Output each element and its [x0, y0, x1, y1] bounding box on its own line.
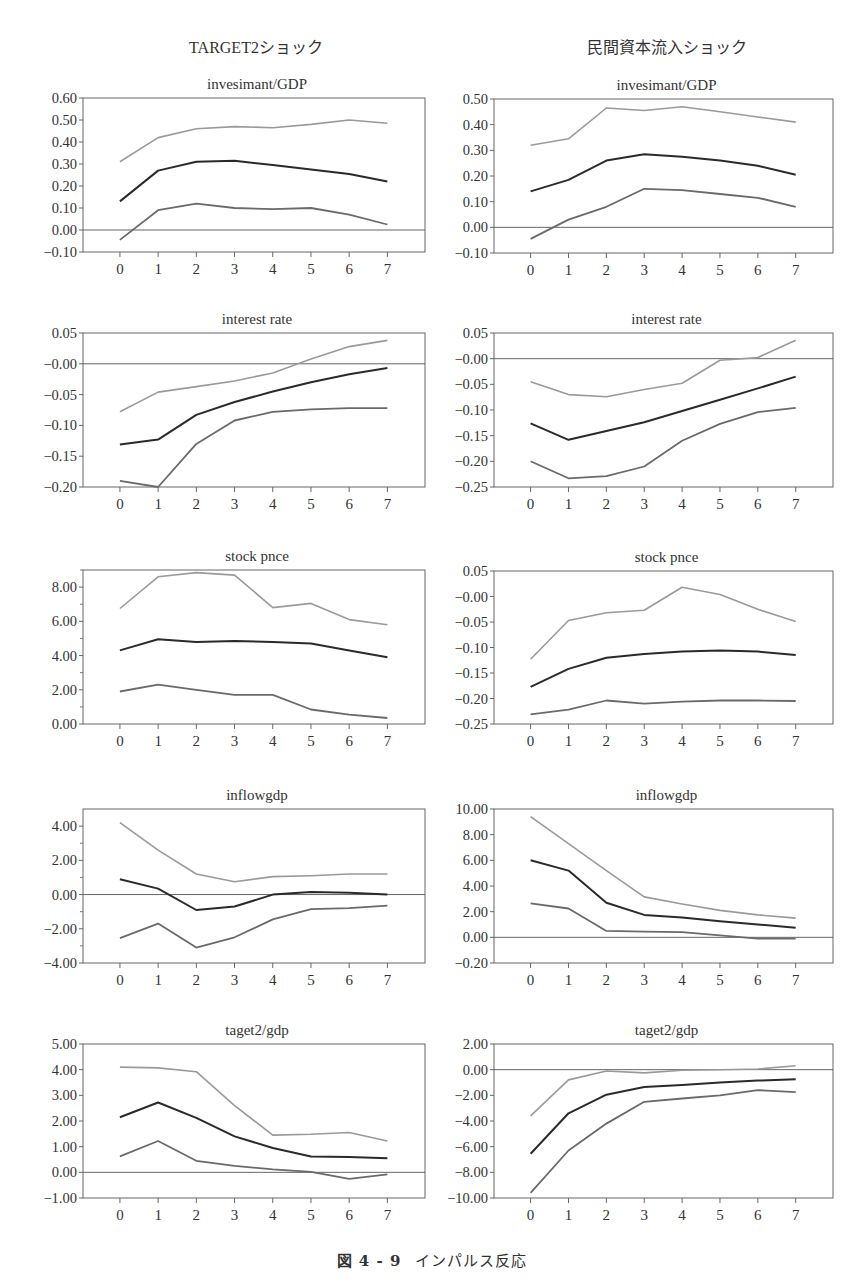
- figure-caption-text: インパルス反応: [415, 1252, 527, 1270]
- y-tick-label: 0.30: [52, 156, 77, 172]
- x-tick-label: 6: [345, 972, 353, 988]
- x-tick-label: 4: [678, 972, 686, 988]
- y-tick-label: 0.60: [52, 90, 77, 106]
- y-tick-label: −10.00: [447, 1190, 488, 1206]
- x-tick-label: 2: [193, 261, 201, 277]
- x-tick-label: 6: [754, 733, 762, 749]
- x-tick-label: 4: [269, 1207, 277, 1223]
- y-tick-label: 0.05: [52, 325, 77, 341]
- x-tick-label: 1: [154, 733, 162, 749]
- y-tick-label: −0.20: [43, 479, 77, 495]
- y-tick-label: 6.00: [463, 852, 488, 868]
- y-tick-label: 0.00: [52, 222, 77, 238]
- panel-title: stock pnce: [635, 549, 699, 565]
- chart-panel-t2-inflow: inflowgdp4.002.000.00−2.00−4.0001234567: [43, 787, 425, 988]
- x-tick-label: 7: [384, 1207, 392, 1223]
- x-tick-label: 1: [154, 972, 162, 988]
- x-tick-label: 5: [716, 262, 724, 278]
- y-tick-label: −4.00: [43, 955, 77, 971]
- x-tick-label: 1: [565, 972, 573, 988]
- series-lower-line: [120, 408, 388, 487]
- y-tick-label: 2.00: [52, 852, 77, 868]
- panel-title: interest rate: [631, 311, 702, 327]
- x-tick-label: 5: [716, 733, 724, 749]
- x-tick-label: 4: [269, 496, 277, 512]
- x-tick-label: 0: [116, 1207, 124, 1223]
- y-tick-label: −0.10: [454, 402, 488, 418]
- panel-title: taget2/gdp: [635, 1022, 698, 1038]
- chart-panel-pc-invest: 民間資本流入ショックinvesimant/GDP0.500.400.300.20…: [454, 39, 833, 278]
- y-tick-label: 2.00: [463, 904, 488, 920]
- y-tick-label: −0.10: [43, 417, 77, 433]
- y-tick-label: −0.10: [43, 244, 77, 260]
- y-tick-label: 0.50: [52, 112, 77, 128]
- x-tick-label: 2: [193, 733, 201, 749]
- x-tick-label: 0: [116, 733, 124, 749]
- x-tick-label: 7: [792, 1207, 800, 1223]
- y-tick-label: −4.00: [454, 1113, 488, 1129]
- x-tick-label: 0: [527, 262, 535, 278]
- series-upper-line: [531, 107, 796, 146]
- x-tick-label: 7: [792, 972, 800, 988]
- y-tick-label: 8.00: [52, 579, 77, 595]
- y-tick-label: 0.00: [463, 1062, 488, 1078]
- x-tick-label: 1: [565, 496, 573, 512]
- x-tick-label: 7: [384, 496, 392, 512]
- x-tick-label: 2: [603, 972, 611, 988]
- x-tick-label: 2: [603, 733, 611, 749]
- panel-title: inflowgdp: [636, 787, 698, 803]
- series-response-line: [531, 860, 796, 927]
- x-tick-label: 5: [307, 733, 315, 749]
- y-tick-label: 0.10: [52, 200, 77, 216]
- x-tick-label: 6: [754, 1207, 762, 1223]
- x-tick-label: 0: [116, 261, 124, 277]
- x-tick-label: 1: [565, 262, 573, 278]
- x-tick-label: 4: [678, 262, 686, 278]
- x-tick-label: 2: [603, 262, 611, 278]
- y-tick-label: −0.15: [43, 448, 77, 464]
- y-tick-label: 4.00: [463, 878, 488, 894]
- series-upper-line: [120, 120, 388, 162]
- series-upper-line: [120, 823, 388, 882]
- impulse-response-figure: TARGET2ショックinvesimant/GDP0.600.500.400.3…: [0, 0, 864, 1285]
- x-tick-label: 4: [269, 733, 277, 749]
- y-tick-label: −0.15: [454, 665, 488, 681]
- panel-title: stock pnce: [225, 548, 289, 564]
- panel-title: inflowgdp: [226, 787, 288, 803]
- y-tick-label: −1.00: [43, 1190, 77, 1206]
- y-tick-label: 1.00: [52, 1139, 77, 1155]
- x-tick-label: 2: [193, 496, 201, 512]
- x-tick-label: 7: [792, 733, 800, 749]
- y-tick-label: −0.05: [43, 387, 77, 403]
- x-tick-label: 7: [792, 496, 800, 512]
- series-response-line: [531, 154, 796, 191]
- series-lower-line: [531, 408, 796, 478]
- x-tick-label: 2: [193, 972, 201, 988]
- x-tick-label: 5: [307, 972, 315, 988]
- y-tick-label: 0.00: [52, 887, 77, 903]
- y-tick-label: 2.00: [52, 682, 77, 698]
- y-tick-label: 5.00: [52, 1036, 77, 1052]
- x-tick-label: 3: [231, 972, 239, 988]
- y-tick-label: 0.50: [463, 91, 488, 107]
- y-tick-label: 0.05: [463, 325, 488, 341]
- x-tick-label: 3: [640, 1207, 648, 1223]
- x-tick-label: 2: [603, 1207, 611, 1223]
- figure-number: 図 4 - 9: [337, 1252, 402, 1270]
- series-upper-line: [531, 817, 796, 918]
- y-tick-label: 4.00: [52, 1062, 77, 1078]
- y-tick-label: −0.20: [454, 955, 488, 971]
- x-tick-label: 0: [116, 972, 124, 988]
- x-tick-label: 1: [154, 1207, 162, 1223]
- series-lower-line: [120, 685, 388, 718]
- x-tick-label: 5: [307, 1207, 315, 1223]
- y-tick-label: 3.00: [52, 1087, 77, 1103]
- chart-panel-pc-rate: interest rate0.05−0.00−0.05−0.10−0.15−0.…: [454, 311, 833, 512]
- y-tick-label: −8.00: [454, 1164, 488, 1180]
- x-tick-label: 7: [384, 972, 392, 988]
- x-tick-label: 7: [384, 733, 392, 749]
- x-tick-label: 3: [640, 262, 648, 278]
- x-tick-label: 5: [307, 261, 315, 277]
- x-tick-label: 3: [640, 972, 648, 988]
- x-tick-label: 0: [527, 496, 535, 512]
